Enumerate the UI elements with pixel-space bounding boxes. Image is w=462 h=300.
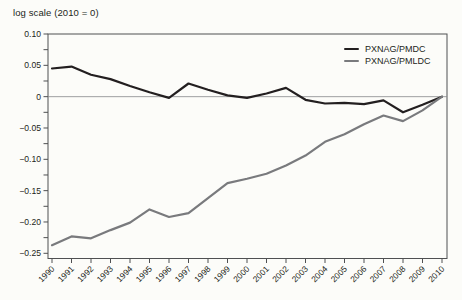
x-axis-label: 1992 (75, 264, 95, 284)
y-axis-label: 0 (36, 92, 41, 102)
x-axis-label: 1990 (36, 264, 56, 284)
legend-item-pxnag-pmdc: PXNAG/PMDC (344, 43, 431, 55)
y-axis-label: −0.15 (19, 186, 41, 196)
series-line-2 (52, 97, 442, 246)
x-axis-label: 1997 (173, 264, 193, 284)
x-axis-label: 2010 (426, 264, 446, 284)
x-axis-label: 2001 (251, 264, 271, 284)
y-axis-label: −0.10 (19, 154, 41, 164)
x-axis-label: 2002 (270, 264, 290, 284)
y-axis-label: −0.25 (19, 248, 41, 258)
legend-item-pxnag-pmldc: PXNAG/PMLDC (344, 55, 431, 67)
series-line-1 (52, 67, 442, 113)
x-axis-label: 1998 (192, 264, 212, 284)
x-axis-label: 2000 (231, 264, 251, 284)
x-axis-label: 1993 (95, 264, 115, 284)
x-axis-label: 1999 (212, 264, 232, 284)
x-axis-label: 2004 (309, 264, 329, 284)
x-axis-label: 2006 (348, 264, 368, 284)
x-axis-label: 2009 (407, 264, 427, 284)
legend-label: PXNAG/PMDC (365, 44, 426, 54)
line-chart-figure: log scale (2010 = 0) 0.100.050−0.05−0.10… (0, 0, 462, 300)
x-axis-label: 2005 (329, 264, 349, 284)
y-axis-label: 0.10 (24, 29, 41, 39)
x-axis-label: 2007 (368, 264, 388, 284)
series1-line-swatch (344, 48, 359, 51)
x-axis-label: 1994 (114, 264, 134, 284)
x-axis-label: 2003 (290, 264, 310, 284)
x-axis-label: 1995 (134, 264, 154, 284)
x-axis-label: 1996 (153, 264, 173, 284)
x-axis-label: 2008 (387, 264, 407, 284)
y-axis-label: −0.20 (19, 217, 41, 227)
series2-line-swatch (344, 60, 359, 63)
chart-legend: PXNAG/PMDC PXNAG/PMLDC (344, 43, 431, 67)
y-axis-label: 0.05 (24, 60, 41, 70)
legend-label: PXNAG/PMLDC (365, 56, 431, 66)
x-axis-label: 1991 (56, 264, 76, 284)
plot-border (48, 34, 447, 259)
y-axis-label: −0.05 (19, 123, 41, 133)
